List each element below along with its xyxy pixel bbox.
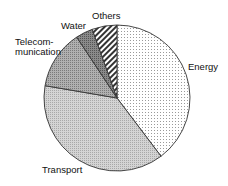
- pie-chart: [0, 0, 228, 186]
- label-transport: Transport: [42, 165, 82, 175]
- label-telecom-line2: munication: [15, 47, 61, 57]
- label-energy: Energy: [188, 62, 218, 72]
- label-others: Others: [92, 11, 121, 21]
- label-water: Water: [61, 21, 86, 31]
